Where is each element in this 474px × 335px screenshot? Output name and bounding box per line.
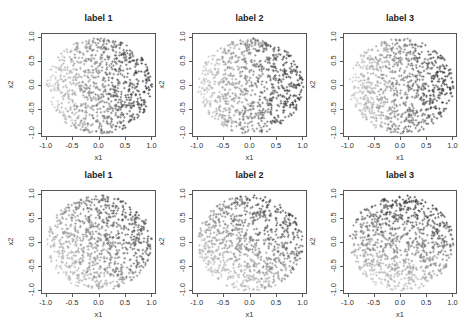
y-tick-label: 0.5 <box>329 49 338 73</box>
y-tick-mark <box>189 61 192 62</box>
x-tick-label: 0.0 <box>244 141 254 150</box>
x-tick-label: -0.5 <box>367 298 380 307</box>
x-tick-mark <box>348 137 349 140</box>
y-tick-label: -1.0 <box>27 277 36 301</box>
y-tick-label: -1.0 <box>329 120 338 144</box>
x-tick-label: -1.0 <box>190 298 203 307</box>
y-axis-label: x2 <box>308 81 317 89</box>
y-tick-mark <box>340 290 343 291</box>
y-tick-mark <box>340 85 343 86</box>
x-tick-mark <box>72 294 73 297</box>
x-tick-label: 0.0 <box>395 141 405 150</box>
y-tick-mark <box>189 37 192 38</box>
x-tick-label: -1.0 <box>190 141 203 150</box>
x-axis-label: x1 <box>396 153 404 162</box>
y-tick-label: -0.5 <box>27 96 36 120</box>
y-tick-mark <box>38 85 41 86</box>
plot-area <box>343 33 457 137</box>
x-tick-label: -0.5 <box>367 141 380 150</box>
x-tick-label: 0.0 <box>93 141 103 150</box>
x-tick-mark <box>125 137 126 140</box>
y-tick-label: -0.5 <box>329 96 338 120</box>
y-tick-label: 0.0 <box>27 230 36 254</box>
x-tick-mark <box>250 137 251 140</box>
x-tick-label: -1.0 <box>341 141 354 150</box>
x-tick-mark <box>99 294 100 297</box>
x-tick-mark <box>400 137 401 140</box>
x-tick-mark <box>276 137 277 140</box>
x-tick-label: 0.5 <box>271 141 281 150</box>
x-tick-mark <box>400 294 401 297</box>
y-tick-mark <box>38 194 41 195</box>
x-tick-label: 0.0 <box>244 298 254 307</box>
y-tick-mark <box>340 266 343 267</box>
plot-area <box>41 33 156 137</box>
y-tick-label: 1.0 <box>329 25 338 49</box>
y-tick-mark <box>189 109 192 110</box>
x-tick-label: -0.5 <box>66 141 79 150</box>
y-tick-label: 0.5 <box>27 206 36 230</box>
panel-title: label 1 <box>39 13 159 23</box>
panel-title: label 1 <box>39 170 159 180</box>
y-tick-mark <box>340 61 343 62</box>
y-tick-label: -0.5 <box>178 96 187 120</box>
scatter-points <box>193 191 308 295</box>
y-tick-label: 1.0 <box>27 182 36 206</box>
y-axis-label: x2 <box>6 81 15 89</box>
y-tick-mark <box>189 218 192 219</box>
x-tick-mark <box>426 294 427 297</box>
x-tick-label: 1.0 <box>297 141 307 150</box>
y-tick-label: -1.0 <box>329 277 338 301</box>
panel-title: label 2 <box>190 13 310 23</box>
x-tick-mark <box>452 294 453 297</box>
x-tick-label: -1.0 <box>39 141 52 150</box>
y-tick-label: 0.0 <box>329 230 338 254</box>
panel-title: label 3 <box>340 170 460 180</box>
x-tick-label: 0.5 <box>271 298 281 307</box>
x-tick-mark <box>426 137 427 140</box>
y-tick-mark <box>340 194 343 195</box>
x-tick-mark <box>72 137 73 140</box>
x-tick-label: -1.0 <box>39 298 52 307</box>
y-tick-label: -0.5 <box>178 253 187 277</box>
x-tick-label: 0.5 <box>120 298 130 307</box>
y-tick-label: 0.5 <box>27 49 36 73</box>
y-tick-mark <box>38 109 41 110</box>
y-tick-label: 0.5 <box>329 206 338 230</box>
scatter-points <box>42 34 157 138</box>
y-tick-mark <box>38 242 41 243</box>
x-tick-mark <box>151 294 152 297</box>
x-tick-mark <box>374 137 375 140</box>
y-tick-label: 0.0 <box>27 73 36 97</box>
y-axis-label: x2 <box>6 238 15 246</box>
x-axis-label: x1 <box>396 310 404 319</box>
plot-area <box>343 190 457 294</box>
y-tick-mark <box>38 218 41 219</box>
y-tick-mark <box>340 109 343 110</box>
y-tick-label: 0.0 <box>329 73 338 97</box>
x-tick-mark <box>125 294 126 297</box>
x-tick-mark <box>276 294 277 297</box>
x-tick-mark <box>197 137 198 140</box>
y-tick-label: 0.5 <box>178 206 187 230</box>
x-tick-label: 1.0 <box>447 298 457 307</box>
plot-area <box>192 33 307 137</box>
x-tick-label: -0.5 <box>66 298 79 307</box>
x-tick-mark <box>302 137 303 140</box>
y-tick-label: 1.0 <box>27 25 36 49</box>
x-tick-mark <box>223 137 224 140</box>
x-tick-label: -1.0 <box>341 298 354 307</box>
x-tick-mark <box>46 294 47 297</box>
y-tick-label: -1.0 <box>178 120 187 144</box>
x-tick-mark <box>151 137 152 140</box>
y-tick-mark <box>189 133 192 134</box>
x-tick-label: 1.0 <box>146 298 156 307</box>
y-tick-mark <box>189 85 192 86</box>
x-tick-label: -0.5 <box>217 141 230 150</box>
x-tick-label: 0.5 <box>421 141 431 150</box>
y-tick-label: 1.0 <box>178 25 187 49</box>
y-tick-mark <box>340 218 343 219</box>
y-axis-label: x2 <box>308 238 317 246</box>
y-tick-mark <box>38 266 41 267</box>
y-tick-mark <box>189 266 192 267</box>
